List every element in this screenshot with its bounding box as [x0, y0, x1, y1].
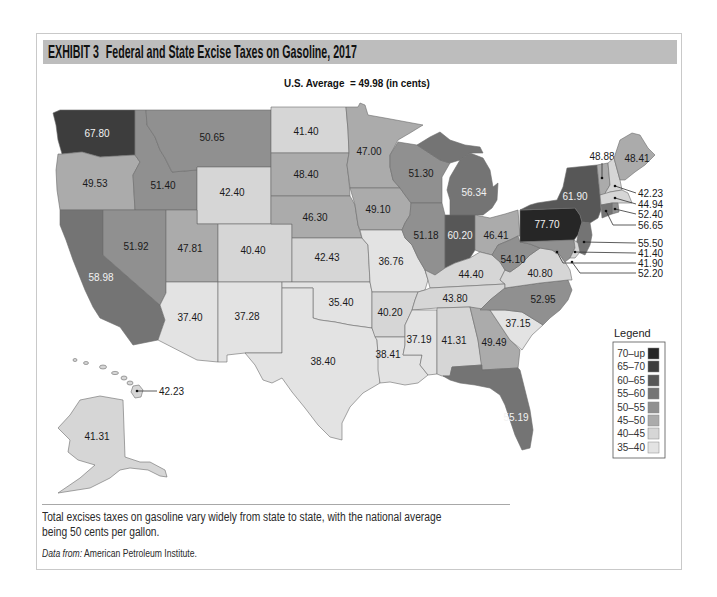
island-shape — [112, 371, 119, 374]
legend-item: 60–65 — [617, 375, 659, 386]
legend-box — [613, 342, 665, 458]
state-value-label: 52.20 — [638, 268, 663, 279]
island-shape — [100, 365, 107, 369]
state-value-label: 42.23 — [638, 188, 663, 199]
legend: Legend 70–up 65–70 60–65 55–60 50–55 45–… — [613, 327, 665, 458]
state-ks: 42.43 — [292, 238, 370, 282]
state-value-label: 41.31 — [84, 431, 109, 442]
state-value-label: 43.80 — [442, 293, 467, 304]
state-value-label: 52.40 — [638, 209, 663, 220]
state-value-label: 41.31 — [441, 335, 466, 346]
leader-dot — [605, 210, 608, 213]
state-shape-lower — [447, 153, 498, 215]
state-value-label: 49.53 — [82, 178, 107, 189]
state-value-label: 51.40 — [150, 180, 175, 191]
legend-swatch — [648, 348, 659, 359]
state-hi: 42.23 — [73, 359, 184, 399]
state-value-label: 40.20 — [377, 307, 402, 318]
state-ak: 41.31 — [58, 396, 167, 493]
state-co: 40.40 — [218, 224, 292, 282]
legend-item-label: 70–up — [617, 348, 645, 359]
state-nm: 37.28 — [218, 282, 282, 362]
legend-swatch — [648, 361, 659, 372]
state-value-label: 41.40 — [293, 126, 318, 137]
state-value-label: 67.80 — [84, 128, 109, 139]
state-value-label: 47.00 — [356, 146, 381, 157]
state-value-label: 46.30 — [302, 212, 327, 223]
legend-item: 50–55 — [617, 402, 659, 413]
legend-swatch — [648, 415, 659, 426]
state-wy: 42.40 — [197, 167, 271, 224]
legend-swatch — [648, 402, 659, 413]
leader-dot — [614, 208, 617, 211]
state-value-label: 51.30 — [408, 168, 433, 179]
legend-item-label: 60–65 — [617, 375, 645, 386]
us-choropleth-map: 67.80 49.53 58.98 51.40 51.92 50.65 42.4… — [0, 0, 717, 597]
leader-dot — [614, 197, 617, 200]
legend-swatch — [648, 388, 659, 399]
leader-dot — [574, 251, 577, 254]
state-value-label: 50.65 — [199, 132, 224, 143]
legend-item-label: 65–70 — [617, 361, 645, 372]
source-note: Data from: American Petroleum Institute. — [42, 547, 197, 560]
state-or: 49.53 — [56, 152, 140, 210]
state-value-label: 38.41 — [375, 349, 400, 360]
legend-item: 40–45 — [617, 428, 659, 439]
leader-line — [572, 262, 636, 273]
state-value-label: 42.43 — [314, 252, 339, 263]
state-value-label: 49.49 — [481, 337, 506, 348]
state-value-label: 56.34 — [461, 187, 486, 198]
state-shape — [58, 396, 167, 493]
state-value-label: 44.40 — [458, 269, 483, 280]
state-value-label: 37.19 — [406, 334, 431, 345]
legend-item: 70–up — [617, 348, 659, 359]
legend-swatch — [648, 428, 659, 439]
state-value-label: 48.40 — [293, 169, 318, 180]
state-value-label: 56.65 — [638, 220, 663, 231]
state-value-label: 58.98 — [88, 272, 113, 283]
island-shape — [84, 362, 89, 365]
state-value-label: 36.76 — [378, 256, 403, 267]
leader-dot — [136, 390, 139, 393]
legend-item-label: 50–55 — [617, 402, 645, 413]
state-fl: 55.19 — [443, 365, 533, 450]
state-value-label: 54.10 — [500, 254, 525, 265]
state-value-label: 55.19 — [503, 412, 528, 423]
island-shape — [121, 376, 127, 380]
state-value-label: 60.20 — [447, 230, 472, 241]
caption-line-2: being 50 cents per gallon. — [42, 525, 159, 540]
state-value-label: 35.40 — [328, 297, 353, 308]
legend-item-label: 45–50 — [617, 415, 645, 426]
state-value-label: 61.90 — [562, 191, 587, 202]
state-wa: 67.80 — [53, 110, 135, 157]
state-value-label: 40.80 — [527, 268, 552, 279]
legend-swatch — [648, 375, 659, 386]
leader-dot — [583, 241, 586, 244]
state-value-label: 77.70 — [534, 219, 559, 230]
source-prefix: Data from: — [42, 548, 82, 559]
legend-item: 65–70 — [617, 361, 659, 372]
caption-divider — [42, 504, 510, 505]
state-value-label: 49.10 — [365, 204, 390, 215]
source-text: American Petroleum Institute. — [82, 548, 197, 559]
state-value-label: 38.40 — [310, 356, 335, 367]
state-value-label: 51.18 — [413, 230, 438, 241]
island-shape — [127, 381, 133, 385]
legend-item-label: 40–45 — [617, 428, 645, 439]
state-value-label: 37.15 — [505, 318, 530, 329]
state-shape — [443, 365, 533, 450]
state-value-label: 37.28 — [234, 311, 259, 322]
state-value-label: 51.92 — [123, 241, 148, 252]
leader-line — [584, 242, 636, 243]
state-value-label: 37.40 — [177, 312, 202, 323]
state-sd: 48.40 — [271, 153, 350, 196]
state-value-label: 47.81 — [177, 243, 202, 254]
leader-dot — [614, 185, 617, 188]
state-value-label: 48.41 — [624, 153, 649, 164]
state-pa: 77.70 — [520, 208, 582, 242]
caption-line-1: Total excises taxes on gasoline vary wid… — [42, 510, 441, 525]
state-ia: 49.10 — [350, 188, 411, 230]
state-value-label: 42.23 — [159, 386, 184, 397]
leader-dot — [556, 251, 559, 254]
state-me: 48.41 — [614, 133, 655, 180]
